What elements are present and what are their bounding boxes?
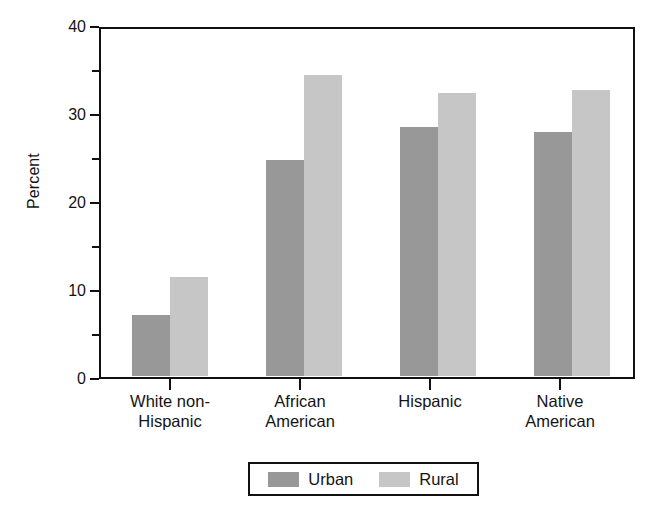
bar-urban-african-american (266, 160, 304, 376)
y-axis-title: Percent (25, 121, 43, 241)
y-tick-mark-30 (90, 114, 99, 117)
y-tick-mark-0 (90, 378, 99, 381)
x-tick-mark-white-non-hispanic (169, 379, 172, 390)
y-tick-label-0: 0 (40, 371, 86, 387)
y-tick-label-10: 10 (40, 283, 86, 299)
x-tick-mark-african-american (299, 379, 302, 390)
y-tick-mark-10 (90, 290, 99, 293)
x-axis-label-line2: American (470, 411, 650, 431)
y-tick-label-30: 30 (40, 107, 86, 123)
x-tick-mark-native-american (559, 379, 562, 390)
bar-rural-african-american (304, 75, 342, 376)
bar-urban-white-non-hispanic (132, 315, 170, 376)
legend: Urban Rural (248, 462, 479, 496)
y-tick-mark-20 (90, 202, 99, 205)
legend-label-urban: Urban (308, 471, 353, 488)
x-axis-label-line2: American (210, 411, 390, 431)
y-tick-label-20: 20 (40, 195, 86, 211)
bars-layer (99, 27, 635, 376)
bar-rural-hispanic (438, 93, 476, 376)
legend-swatch-rural (379, 472, 410, 487)
x-axis-label-line1: Native (470, 391, 650, 411)
bar-chart: Percent 0 10 20 30 40 White non- Hispani (0, 0, 652, 522)
x-tick-mark-hispanic (429, 379, 432, 390)
y-tick-mark-15 (92, 246, 99, 249)
x-axis-label-native-american: Native American (470, 391, 650, 431)
legend-entry-urban: Urban (268, 471, 353, 488)
legend-entry-rural: Rural (379, 471, 458, 488)
y-tick-mark-35 (92, 70, 99, 73)
y-tick-mark-40 (90, 26, 99, 29)
legend-label-rural: Rural (419, 471, 458, 488)
bar-rural-white-non-hispanic (170, 277, 208, 377)
bar-urban-native-american (534, 132, 572, 376)
y-tick-mark-5 (92, 334, 99, 337)
bar-urban-hispanic (400, 127, 438, 377)
legend-swatch-urban (268, 472, 299, 487)
y-tick-mark-25 (92, 158, 99, 161)
y-tick-label-40: 40 (40, 19, 86, 35)
bar-rural-native-american (572, 90, 610, 376)
